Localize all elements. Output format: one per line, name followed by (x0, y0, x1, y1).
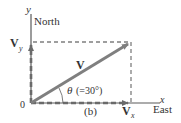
resultant-label: V (76, 58, 85, 72)
east-label: East (153, 103, 172, 115)
theta-symbol: θ (67, 84, 73, 96)
vx-subscript: x (130, 111, 135, 120)
y-axis-label: y (25, 3, 31, 15)
vy-subscript: y (18, 44, 23, 53)
angle-arc (59, 88, 63, 103)
vx-label: V (122, 104, 131, 118)
origin-label: 0 (20, 99, 25, 110)
panel-label: (b) (84, 105, 97, 118)
vector-components-diagram: y North V y V θ (=30°) 0 (b) V x x East (0, 0, 181, 123)
vy-label: V (10, 36, 19, 50)
angle-value: (=30°) (76, 85, 102, 97)
north-label: North (34, 15, 60, 27)
